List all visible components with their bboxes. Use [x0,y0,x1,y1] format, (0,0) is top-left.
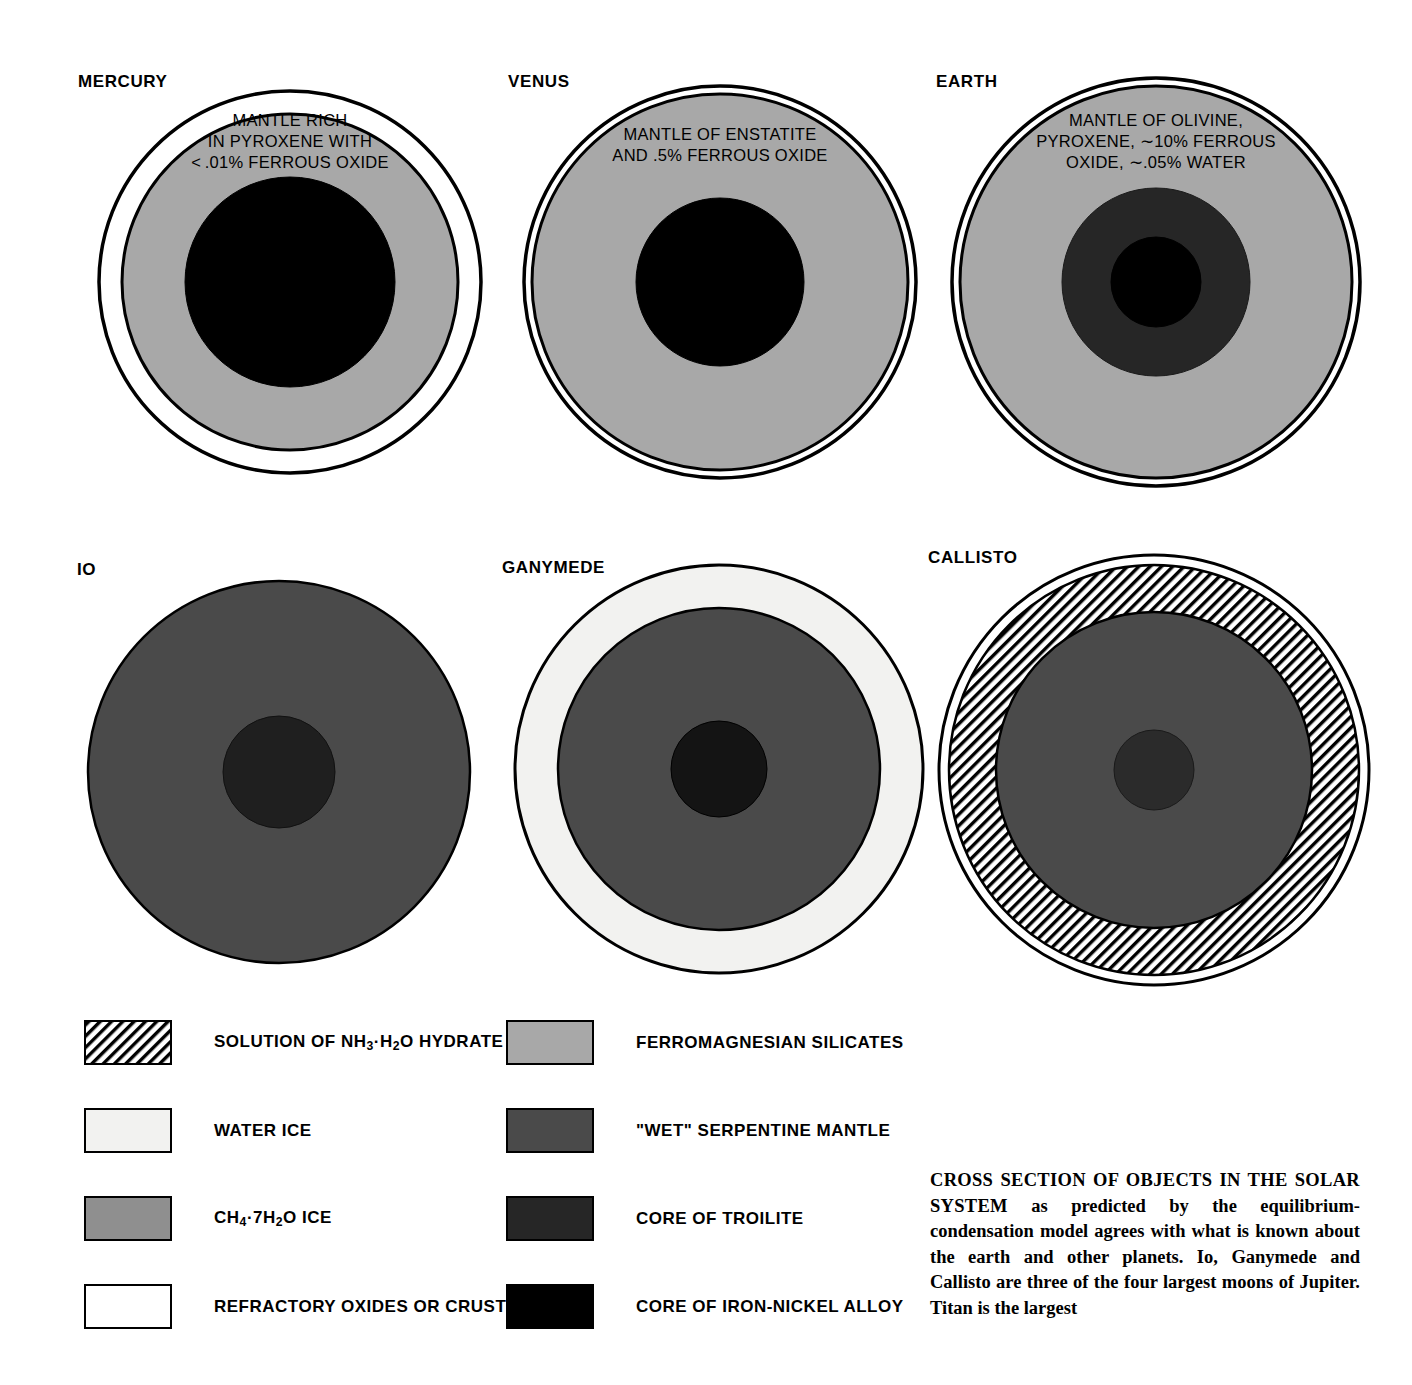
legend-item-refractory: REFRACTORY OXIDES OR CRUST [84,1284,506,1329]
legend-swatch-serpentine [506,1108,594,1153]
legend-item-water-ice: WATER ICE [84,1108,312,1153]
legend-label-water-ice: WATER ICE [214,1121,312,1141]
body-label-io: IO [77,560,96,580]
legend: SOLUTION OF NH3·H2O HYDRATE WATER ICE CH… [0,1008,960,1318]
mercury-cross-section [96,88,484,476]
layer-core-troilite [223,716,335,828]
legend-swatch-troilite [506,1196,594,1241]
legend-swatch-refractory [84,1284,172,1329]
body-panel-earth: EARTH MANTLE OF OLIVINE, PYROXENE, ∼10% … [948,74,1364,490]
legend-swatch-iron-nickel [506,1284,594,1329]
legend-label-ferromagnesian: FERROMAGNESIAN SILICATES [636,1033,904,1053]
body-panel-venus: VENUS MANTLE OF ENSTATITE AND .5% FERROU… [520,82,920,482]
legend-swatch-water-ice [84,1108,172,1153]
earth-cross-section [948,74,1364,490]
layer-core-troilite [1114,730,1194,810]
io-cross-section [85,578,473,966]
legend-swatch-ch4-ice [84,1196,172,1241]
body-panel-ganymede: GANYMEDE [512,562,926,976]
legend-label-refractory: REFRACTORY OXIDES OR CRUST [214,1297,506,1317]
legend-item-ch4-ice: CH4·7H2O ICE [84,1196,332,1241]
legend-swatch-nh3-hydrate [84,1020,172,1065]
figure-caption: CROSS SECTION OF OBJECTS IN THE SOLAR SY… [930,1168,1360,1321]
legend-label-iron-nickel: CORE OF IRON-NICKEL ALLOY [636,1297,904,1317]
layer-core-troilite [671,721,767,817]
layer-core-iron-nickel [1111,237,1201,327]
venus-cross-section [520,82,920,482]
body-panel-callisto: CALLISTO [936,552,1372,988]
legend-label-ch4-ice: CH4·7H2O ICE [214,1208,332,1229]
legend-label-nh3-hydrate: SOLUTION OF NH3·H2O HYDRATE [214,1032,503,1053]
layer-core-iron-nickel [636,198,804,366]
legend-swatch-ferromagnesian [506,1020,594,1065]
legend-item-serpentine: "WET" SERPENTINE MANTLE [506,1108,890,1153]
body-panel-mercury: MERCURY MANTLE RICH IN PYROXENE WITH < .… [96,88,484,476]
legend-item-troilite: CORE OF TROILITE [506,1196,804,1241]
body-panel-io: IO [85,578,473,966]
hatch-fill-icon [86,1022,170,1063]
legend-item-ferromagnesian: FERROMAGNESIAN SILICATES [506,1020,904,1065]
legend-item-nh3-hydrate: SOLUTION OF NH3·H2O HYDRATE [84,1020,503,1065]
legend-item-iron-nickel: CORE OF IRON-NICKEL ALLOY [506,1284,904,1329]
legend-label-troilite: CORE OF TROILITE [636,1209,804,1229]
callisto-cross-section [936,552,1372,988]
layer-core-iron-nickel [185,177,395,387]
legend-label-serpentine: "WET" SERPENTINE MANTLE [636,1121,890,1141]
ganymede-cross-section [512,562,926,976]
